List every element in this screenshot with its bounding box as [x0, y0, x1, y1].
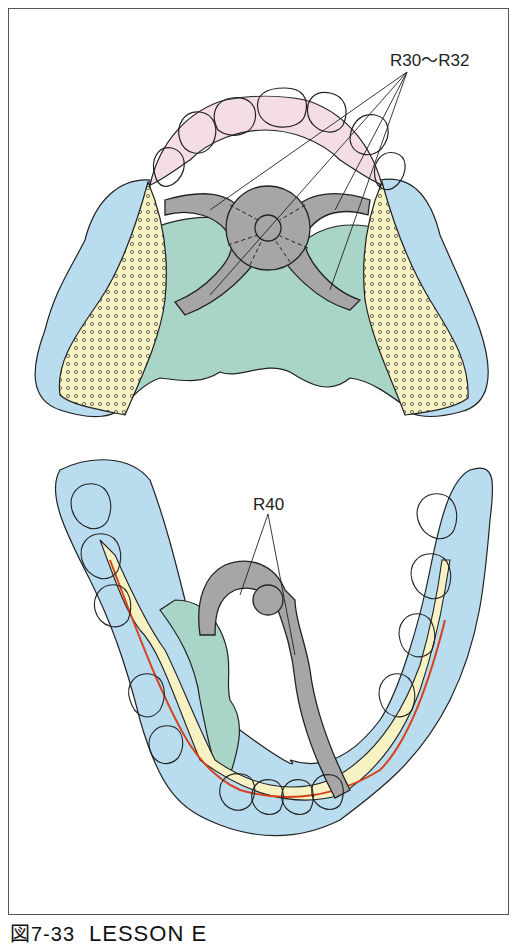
lower-arch: R40 [55, 460, 492, 836]
upper-arch: R30〜R32 [35, 51, 488, 417]
lower-connector-disc [253, 585, 283, 615]
figure-caption: 図7-33LESSON E [10, 918, 207, 947]
upper-anterior-pink [150, 96, 382, 185]
lower-label: R40 [253, 495, 284, 514]
upper-label: R30〜R32 [390, 51, 469, 70]
figure-title: LESSON E [89, 921, 207, 946]
figure-number: 図7-33 [10, 923, 75, 945]
